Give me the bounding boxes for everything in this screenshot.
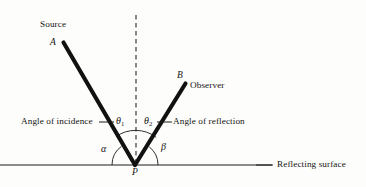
beta-arc <box>149 147 158 165</box>
observer-label: Observer <box>190 81 224 90</box>
reflecting-surface-label: Reflecting surface <box>277 160 346 169</box>
theta-two-subscript: 2 <box>149 120 152 127</box>
point-p-label: P <box>132 168 138 178</box>
alpha-label: α <box>101 144 106 154</box>
point-b-label: B <box>177 71 183 81</box>
theta-one-label: θ1 <box>116 116 124 126</box>
alpha-arc <box>112 146 121 165</box>
point-a-label: A <box>50 38 56 48</box>
incident-ray <box>64 43 136 166</box>
theta-two-label: θ2 <box>144 116 152 126</box>
theta-one-subscript: 1 <box>121 120 124 127</box>
angle-of-reflection-label: Angle of reflection <box>173 117 245 126</box>
beta-label: β <box>161 142 166 152</box>
source-label: Source <box>40 20 66 29</box>
angle-of-incidence-label: Angle of incidence <box>21 117 93 126</box>
reflection-diagram: Source A B Observer Angle of incidence A… <box>0 0 366 187</box>
